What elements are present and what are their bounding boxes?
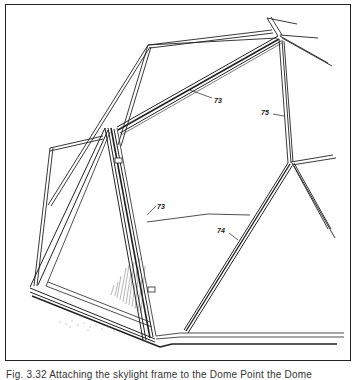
callout-73-upper: 73 — [214, 97, 222, 104]
hinge-bracket-bottom — [148, 287, 155, 292]
callout-73-lower: 73 — [157, 203, 165, 210]
callout-74: 74 — [217, 227, 225, 234]
callout-75: 75 — [261, 109, 269, 116]
figure-caption: Fig. 3.32 Attaching the skylight frame t… — [6, 369, 312, 380]
hinge-bracket-top — [115, 158, 122, 163]
